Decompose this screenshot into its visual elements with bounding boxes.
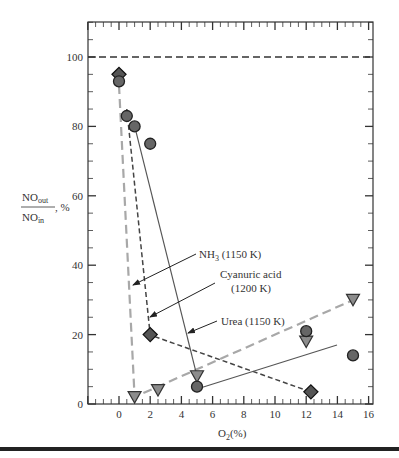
x-ticks — [88, 22, 369, 404]
svg-text:8: 8 — [241, 408, 247, 420]
y-axis-label: NOout NOin , % — [21, 191, 70, 225]
nh3-arrow — [133, 254, 196, 285]
urea-arrow — [188, 321, 217, 333]
svg-text:0: 0 — [116, 408, 122, 420]
urea-label: Urea (1150 K) — [221, 315, 285, 328]
nh3-label: NH3 (1150 K) — [199, 248, 262, 263]
svg-text:14: 14 — [332, 408, 344, 420]
cyanuric-label-line1: Cyanuric acid — [220, 268, 282, 280]
svg-text:100: 100 — [67, 51, 84, 63]
cyanuric-arrow — [150, 283, 215, 317]
svg-text:80: 80 — [72, 120, 84, 132]
urea-line-2 — [197, 345, 337, 389]
svg-text:40: 40 — [72, 259, 84, 271]
svg-text:20: 20 — [72, 329, 84, 341]
chart-svg: NH3 (1150 K) Cyanuric acid (1200 K) Urea… — [0, 0, 399, 458]
svg-text:2: 2 — [147, 408, 153, 420]
svg-text:4: 4 — [179, 408, 185, 420]
cyanuric-label-line2: (1200 K) — [231, 282, 271, 295]
svg-text:10: 10 — [270, 408, 282, 420]
svg-text:, %: , % — [55, 201, 70, 213]
svg-text:12: 12 — [301, 408, 312, 420]
nh3-line — [119, 85, 353, 397]
page-divider-rule — [0, 447, 399, 451]
x-tick-labels: 0246810121416 — [116, 408, 374, 420]
y-tick-labels: 020406080100 — [67, 51, 84, 410]
svg-text:NOout: NOout — [22, 191, 49, 205]
svg-text:60: 60 — [72, 190, 84, 202]
urea-line-1 — [135, 126, 197, 376]
x-axis-label: O2(%) — [218, 427, 247, 442]
svg-text:0: 0 — [78, 398, 84, 410]
svg-text:16: 16 — [363, 408, 375, 420]
svg-text:6: 6 — [210, 408, 216, 420]
svg-text:NOin: NOin — [22, 211, 44, 225]
